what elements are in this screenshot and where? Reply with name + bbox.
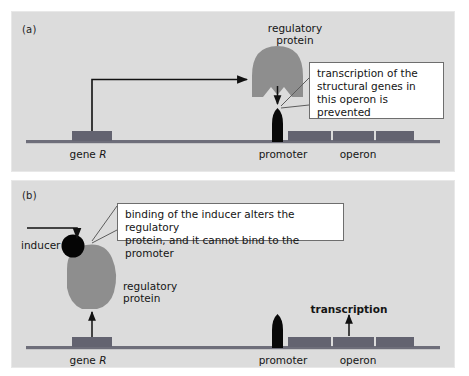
panel-a-operon-gene-2 — [333, 131, 374, 141]
panel-a-graphics — [26, 46, 440, 143]
panel-b-callout-leader-top — [92, 206, 117, 241]
panel-a-gene-to-protein-arrow — [92, 80, 247, 132]
panel-b-graphics — [26, 206, 440, 349]
panel-b-operon-gene-1 — [288, 337, 331, 347]
panel-b-inducer — [62, 235, 85, 258]
panel-a-operon-gene-1 — [288, 131, 331, 141]
panel-a-callout-leader-bottom — [281, 105, 309, 108]
panel-b-operon-gene-3 — [376, 337, 414, 347]
panel-b-operon-gene-2 — [333, 337, 374, 347]
panel-a-promoter-triangle — [272, 108, 283, 142]
panel-a-gene-r-block — [72, 131, 112, 141]
panel-b-promoter-triangle — [272, 314, 283, 348]
figure-root: (a) regulatory protein transcription of … — [0, 0, 469, 376]
panel-a-operon-gene-3 — [376, 131, 414, 141]
panel-b-gene-r-block — [72, 337, 112, 347]
diagram-graphics — [0, 0, 469, 376]
